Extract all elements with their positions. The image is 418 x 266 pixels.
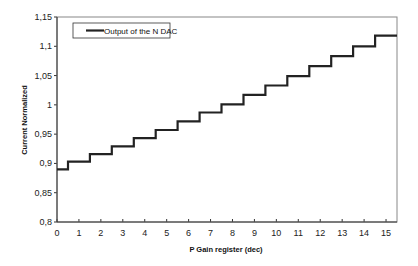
x-tick-label: 3	[120, 228, 125, 238]
x-tick-label: 12	[315, 228, 325, 238]
legend: Output of the N DAC	[73, 23, 178, 38]
plot-area	[57, 17, 397, 222]
x-tick-label: 14	[359, 228, 369, 238]
x-tick-label: 15	[381, 228, 391, 238]
y-tick-label: 0,95	[34, 129, 52, 139]
y-axis-title: Current Normalized	[20, 85, 29, 155]
x-tick-label: 1	[76, 228, 81, 238]
y-axis-ticks: 0,80,850,90,9511,051,11,15	[34, 12, 57, 227]
series-line-n-dac	[57, 36, 397, 170]
x-tick-label: 9	[252, 228, 257, 238]
step-chart: 0,80,850,90,9511,051,11,15 0123456789101…	[0, 0, 418, 266]
x-tick-label: 0	[54, 228, 59, 238]
x-tick-label: 4	[142, 228, 147, 238]
y-tick-label: 0,8	[39, 217, 52, 227]
x-tick-label: 10	[271, 228, 281, 238]
x-tick-label: 6	[186, 228, 191, 238]
x-tick-label: 11	[294, 228, 303, 238]
y-tick-label: 1,1	[39, 41, 52, 51]
y-tick-label: 1,05	[34, 71, 52, 81]
y-tick-label: 0,85	[34, 188, 52, 198]
y-tick-label: 0,9	[39, 158, 52, 168]
x-axis-title: P Gain register (dec)	[189, 245, 263, 254]
x-tick-label: 5	[164, 228, 169, 238]
x-tick-label: 2	[98, 228, 103, 238]
x-tick-label: 7	[208, 228, 213, 238]
legend-label: Output of the N DAC	[104, 27, 178, 36]
y-tick-label: 1,15	[34, 12, 52, 22]
x-tick-label: 13	[337, 228, 347, 238]
y-tick-label: 1	[47, 100, 52, 110]
x-tick-label: 8	[230, 228, 235, 238]
